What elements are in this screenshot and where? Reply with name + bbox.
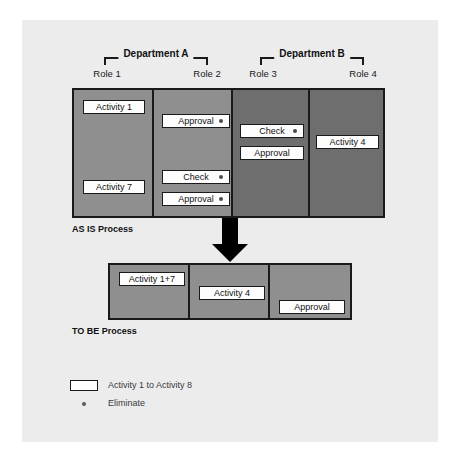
arrow-head: [212, 244, 248, 262]
lane-role-4: [310, 90, 383, 216]
bracket-tick-right: [362, 57, 364, 65]
activity-box-approval-role2-top[interactable]: Approval: [162, 114, 230, 128]
activity-box-activity-1-plus-7[interactable]: Activity 1+7: [119, 272, 185, 286]
arrow-shaft: [222, 218, 238, 244]
activity-box-check-role2[interactable]: Check: [162, 170, 230, 184]
activity-box-approval-role2-bottom[interactable]: Approval: [162, 192, 230, 206]
department-bracket-a: Department A: [104, 48, 208, 66]
role-label-role-3: Role 3: [234, 68, 292, 80]
as-is-process-caption: AS IS Process: [72, 224, 133, 235]
role-label-role-4: Role 4: [334, 68, 392, 80]
diagram-canvas: Department A Department B Role 1 Role 2 …: [22, 20, 438, 442]
activity-label: Check: [183, 172, 209, 182]
legend-activity-box-icon: [70, 380, 98, 391]
activity-box-check-role3[interactable]: Check: [240, 124, 304, 138]
bracket-tick-left: [104, 57, 106, 65]
role-label-role-2: Role 2: [178, 68, 236, 80]
activity-label: Activity 1: [96, 102, 132, 112]
eliminate-dot-icon: [293, 129, 297, 133]
role-label-role-1: Role 1: [78, 68, 136, 80]
activity-box-activity-4-asis[interactable]: Activity 4: [316, 135, 379, 149]
activity-box-activity-7[interactable]: Activity 7: [83, 180, 145, 194]
activity-label: Approval: [294, 302, 330, 312]
activity-label: Activity 7: [96, 182, 132, 192]
department-a-label: Department A: [118, 48, 193, 60]
department-bracket-b: Department B: [260, 48, 364, 66]
eliminate-dot-icon: [219, 197, 223, 201]
activity-label: Activity 1+7: [129, 274, 175, 284]
activity-box-approval-role3[interactable]: Approval: [240, 146, 304, 160]
to-be-process-caption: TO BE Process: [72, 326, 137, 337]
department-b-label: Department B: [274, 48, 350, 60]
eliminate-dot-icon: [219, 119, 223, 123]
activity-label: Approval: [254, 148, 290, 158]
eliminate-dot-icon: [219, 175, 223, 179]
activity-box-activity-1[interactable]: Activity 1: [83, 100, 145, 114]
to-be-swimlane-frame: Activity 1+7 Activity 4 Approval: [108, 263, 352, 320]
activity-label: Check: [259, 126, 285, 136]
legend-activity-label: Activity 1 to Activity 8: [108, 380, 192, 391]
activity-label: Approval: [178, 116, 214, 126]
activity-label: Activity 4: [329, 137, 365, 147]
activity-box-approval-tobe[interactable]: Approval: [279, 300, 345, 314]
activity-box-activity-4-tobe[interactable]: Activity 4: [199, 286, 265, 300]
as-is-swimlane-frame: Activity 1 Activity 7 Approval Check App…: [72, 88, 385, 218]
activity-label: Activity 4: [214, 288, 250, 298]
bracket-tick-right: [206, 57, 208, 65]
legend-eliminate-dot-icon: [82, 402, 86, 406]
legend-eliminate-label: Eliminate: [108, 398, 145, 409]
down-arrow-icon: [212, 218, 248, 262]
activity-label: Approval: [178, 194, 214, 204]
bracket-tick-left: [260, 57, 262, 65]
